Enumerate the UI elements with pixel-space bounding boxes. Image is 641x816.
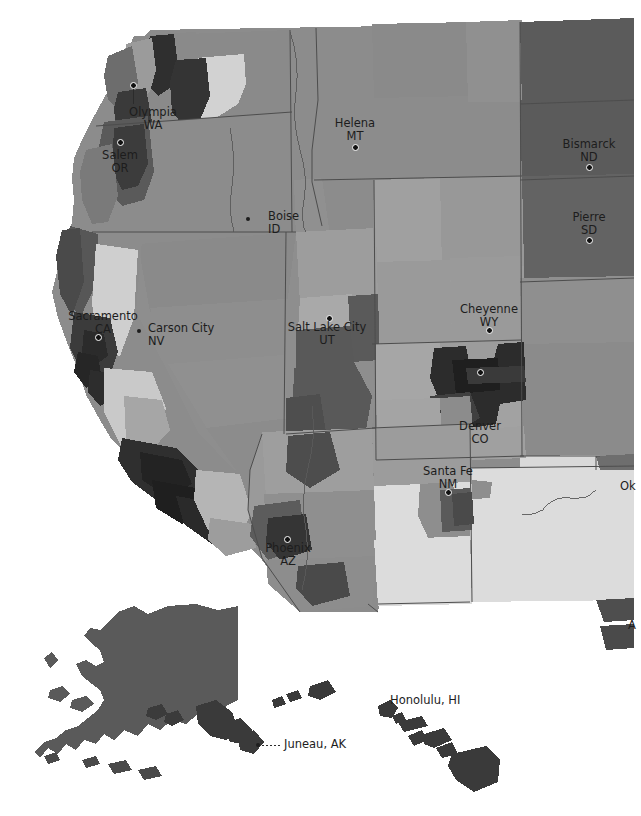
- city-dot-bismarck[interactable]: [586, 164, 593, 171]
- region-montana: [314, 20, 524, 182]
- region-wyoming: [372, 176, 524, 346]
- city-dot-olympia[interactable]: [130, 82, 137, 89]
- city-dot-pierre[interactable]: [586, 237, 593, 244]
- city-dot-boise[interactable]: [246, 217, 250, 221]
- city-dot-santa-fe[interactable]: [445, 489, 452, 496]
- city-dot-carson-city[interactable]: [137, 329, 141, 333]
- region-north-dakota: [520, 18, 634, 180]
- city-dot-salt-lake-city[interactable]: [326, 315, 333, 322]
- city-dot-sacramento[interactable]: [95, 334, 102, 341]
- region-south-dakota: [520, 174, 634, 282]
- city-dot-helena[interactable]: [352, 144, 359, 151]
- region-utah: [284, 228, 380, 436]
- city-dot-denver[interactable]: [477, 369, 484, 376]
- inset-hawaii: [272, 680, 500, 792]
- city-dot-cheyenne[interactable]: [486, 327, 493, 334]
- region-arizona: [248, 428, 376, 612]
- city-dot-salem[interactable]: [117, 139, 124, 146]
- city-dot-phoenix[interactable]: [284, 536, 291, 543]
- city-dot-juneau[interactable]: [256, 743, 260, 747]
- inset-alaska: [34, 604, 264, 780]
